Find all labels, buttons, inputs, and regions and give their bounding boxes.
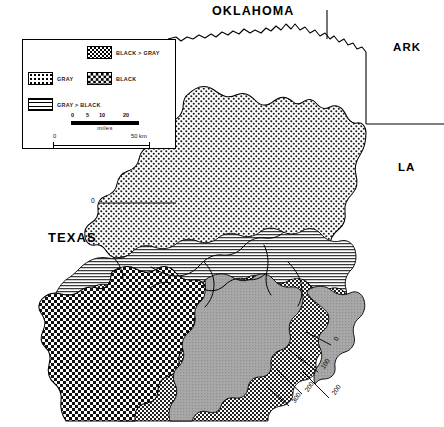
km-tick-labels: 0 50 km	[53, 133, 171, 142]
legend-label-gray: GRAY	[57, 76, 73, 82]
legend-swatch-black-gt-gray	[87, 46, 112, 59]
km-scale-bar	[53, 142, 171, 148]
miles-tick-labels: 0 5 10 20	[71, 112, 143, 121]
legend-label-black-gt-gray: BLACK > GRAY	[116, 50, 160, 56]
miles-tick-20: 20	[123, 112, 129, 118]
scale-bars: 0 5 10 20 miles 0 50 km	[53, 112, 171, 148]
map-figure: OKLAHOMA ARK LA TEXAS 0 0 100 200 200 30…	[0, 0, 444, 427]
map-legend: BLACK > GRAY BLACK GRAY GRAY > BLACK 0 5…	[22, 39, 176, 149]
miles-tick-0: 0	[71, 112, 74, 118]
legend-entry-black: BLACK	[87, 72, 136, 85]
contour-label-0-west: 0	[91, 197, 95, 204]
state-label-louisiana: LA	[398, 161, 416, 173]
legend-entry-black-gt-gray: BLACK > GRAY	[87, 46, 160, 59]
legend-swatch-black	[87, 72, 112, 85]
state-label-arkansas: ARK	[393, 41, 421, 53]
miles-unit-label: miles	[71, 125, 139, 131]
legend-swatch-gray	[28, 72, 53, 85]
legend-entry-gray: GRAY	[28, 72, 73, 85]
legend-label-gray-gt-black: GRAY > BLACK	[57, 102, 101, 108]
miles-tick-10: 10	[99, 112, 105, 118]
km-tick-end: 50 km	[131, 133, 147, 139]
legend-swatch-gray-gt-black	[28, 98, 53, 111]
state-label-texas: TEXAS	[48, 230, 97, 245]
red-river-boundary	[168, 24, 366, 52]
state-label-oklahoma: OKLAHOMA	[212, 4, 294, 18]
legend-label-black: BLACK	[116, 76, 136, 82]
km-tick-start: 0	[53, 133, 56, 139]
legend-entry-gray-gt-black: GRAY > BLACK	[28, 98, 101, 111]
miles-tick-5: 5	[86, 112, 89, 118]
